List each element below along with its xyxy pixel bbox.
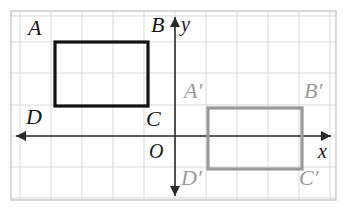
label-x-axis: x (318, 141, 327, 161)
label-origin-O: O (149, 141, 163, 161)
label-D-prime: D′ (181, 167, 202, 189)
label-C: C (146, 108, 161, 130)
geometry-diagram-svg (0, 0, 348, 211)
label-A: A (28, 17, 41, 39)
label-C-prime: C′ (299, 167, 319, 189)
label-D: D (26, 106, 42, 128)
label-B: B (151, 14, 164, 36)
coordinate-grid-figure: A B C D A′ B′ C′ D′ O x y (0, 0, 348, 211)
label-A-prime: A′ (184, 80, 202, 102)
label-y-axis: y (181, 14, 190, 34)
label-B-prime: B′ (304, 80, 322, 102)
